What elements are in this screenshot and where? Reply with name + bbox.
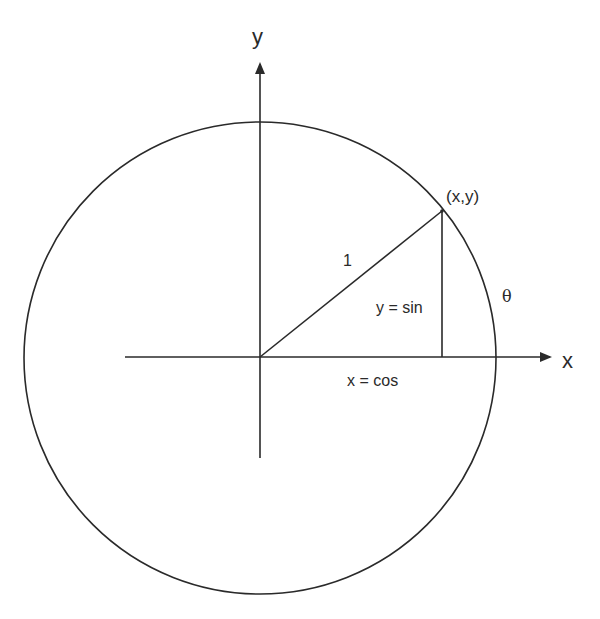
hypotenuse-label: 1 — [343, 253, 352, 269]
point-label: (x,y) — [446, 188, 479, 205]
unit-circle-diagram — [0, 0, 600, 619]
radius-line — [260, 211, 442, 357]
theta-label: θ — [502, 289, 512, 305]
x-axis-label: x — [562, 350, 573, 372]
y-axis-label: y — [252, 26, 263, 48]
sine-label: y = sin — [376, 300, 423, 316]
point-marker — [440, 209, 444, 213]
cosine-label: x = cos — [347, 373, 398, 389]
